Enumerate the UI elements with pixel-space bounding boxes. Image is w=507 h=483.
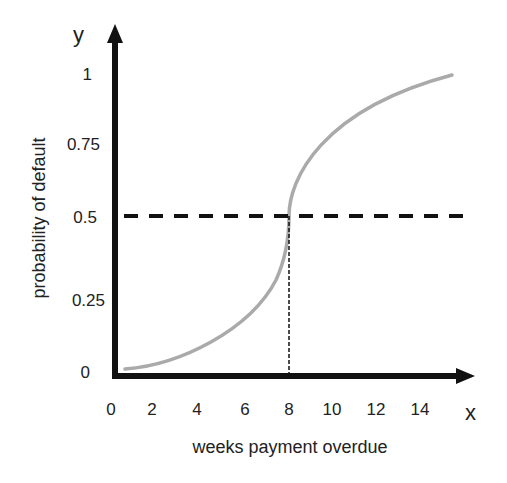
- y-tick-label: 1: [83, 66, 92, 83]
- x-tick-label: 6: [240, 401, 249, 418]
- x-tick-label: 12: [367, 401, 386, 418]
- x-tick-label: 8: [284, 401, 293, 418]
- x-axis-title: weeks payment overdue: [192, 437, 387, 458]
- y-axis-title: probability of default: [29, 137, 50, 298]
- y-axis-arrow-icon: [107, 24, 123, 43]
- x-tick-label: 4: [192, 401, 201, 418]
- x-axis-name: x: [465, 402, 476, 424]
- x-tick-label: 0: [106, 401, 115, 418]
- x-tick-label: 2: [147, 401, 156, 418]
- y-tick-label: 0.5: [73, 209, 97, 226]
- y-tick-label: 0.25: [72, 292, 105, 309]
- x-tick-label: 14: [411, 401, 430, 418]
- y-tick-label: 0.75: [67, 136, 100, 153]
- x-axis-arrow-icon: [456, 368, 475, 384]
- x-tick-label: 10: [323, 401, 342, 418]
- y-tick-label: 0: [81, 364, 90, 381]
- y-axis-name: y: [73, 24, 84, 46]
- chart-canvas: [0, 0, 507, 483]
